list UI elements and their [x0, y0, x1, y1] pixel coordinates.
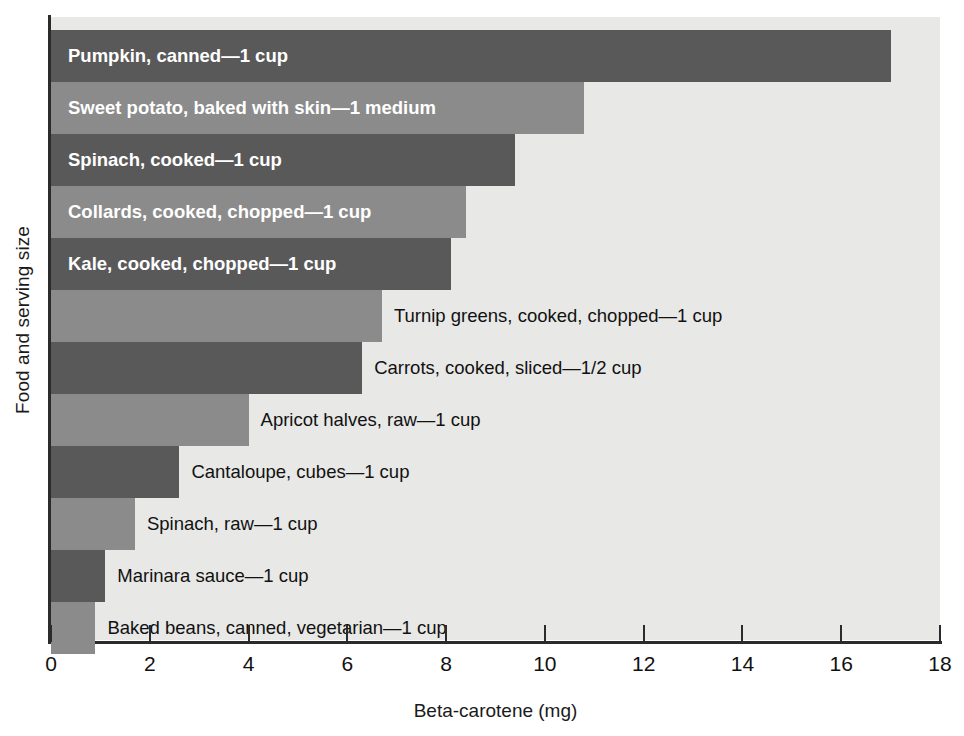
bar-row: Marinara sauce—1 cup	[0, 550, 940, 602]
bar-label: Sweet potato, baked with skin—1 medium	[68, 82, 436, 134]
bar	[51, 498, 135, 550]
bar-row: Apricot halves, raw—1 cup	[0, 394, 940, 446]
x-tick-mark	[939, 625, 941, 642]
bar-label: Spinach, cooked—1 cup	[68, 134, 282, 186]
x-tick-mark	[346, 625, 348, 642]
chart-figure: Food and serving size Pumpkin, canned—1 …	[0, 0, 964, 736]
x-tick-label: 6	[341, 652, 353, 676]
bar-label: Kale, cooked, chopped—1 cup	[68, 238, 336, 290]
bar-row: Pumpkin, canned—1 cup	[0, 30, 940, 82]
x-tick-mark	[840, 625, 842, 642]
bar-row: Kale, cooked, chopped—1 cup	[0, 238, 940, 290]
bar	[51, 446, 179, 498]
bar-label: Cantaloupe, cubes—1 cup	[191, 446, 409, 498]
bar-label: Baked beans, canned, vegetarian—1 cup	[107, 602, 446, 654]
bar-label: Collards, cooked, chopped—1 cup	[68, 186, 371, 238]
x-tick-mark	[544, 625, 546, 642]
x-tick-label: 2	[144, 652, 156, 676]
x-tick-mark	[149, 625, 151, 642]
bar-label: Apricot halves, raw—1 cup	[261, 394, 481, 446]
bar-row: Collards, cooked, chopped—1 cup	[0, 186, 940, 238]
x-tick-label: 10	[533, 652, 556, 676]
x-tick-label: 12	[632, 652, 655, 676]
bar-row: Spinach, raw—1 cup	[0, 498, 940, 550]
bar-row: Turnip greens, cooked, chopped—1 cup	[0, 290, 940, 342]
bar-row: Cantaloupe, cubes—1 cup	[0, 446, 940, 498]
x-tick-mark	[248, 625, 250, 642]
x-tick-label: 18	[928, 652, 951, 676]
bar-row: Spinach, cooked—1 cup	[0, 134, 940, 186]
x-tick-mark	[741, 625, 743, 642]
bar-label: Spinach, raw—1 cup	[147, 498, 318, 550]
bar	[51, 290, 382, 342]
bar-row: Baked beans, canned, vegetarian—1 cup	[0, 602, 940, 654]
bar	[51, 342, 362, 394]
x-tick-mark	[445, 625, 447, 642]
x-tick-label: 16	[830, 652, 853, 676]
bar	[51, 394, 249, 446]
bar-label: Turnip greens, cooked, chopped—1 cup	[394, 290, 722, 342]
x-tick-label: 0	[45, 652, 57, 676]
bar-row: Carrots, cooked, sliced—1/2 cup	[0, 342, 940, 394]
bar	[51, 602, 95, 654]
x-axis-title: Beta-carotene (mg)	[51, 700, 940, 722]
x-tick-label: 8	[440, 652, 452, 676]
x-tick-label: 14	[731, 652, 754, 676]
bar-row: Sweet potato, baked with skin—1 medium	[0, 82, 940, 134]
bar	[51, 550, 105, 602]
bar-label: Marinara sauce—1 cup	[117, 550, 308, 602]
bar-label: Pumpkin, canned—1 cup	[68, 30, 288, 82]
bar-label: Carrots, cooked, sliced—1/2 cup	[374, 342, 641, 394]
x-tick-mark	[50, 625, 52, 642]
x-tick-label: 4	[243, 652, 255, 676]
x-tick-mark	[643, 625, 645, 642]
